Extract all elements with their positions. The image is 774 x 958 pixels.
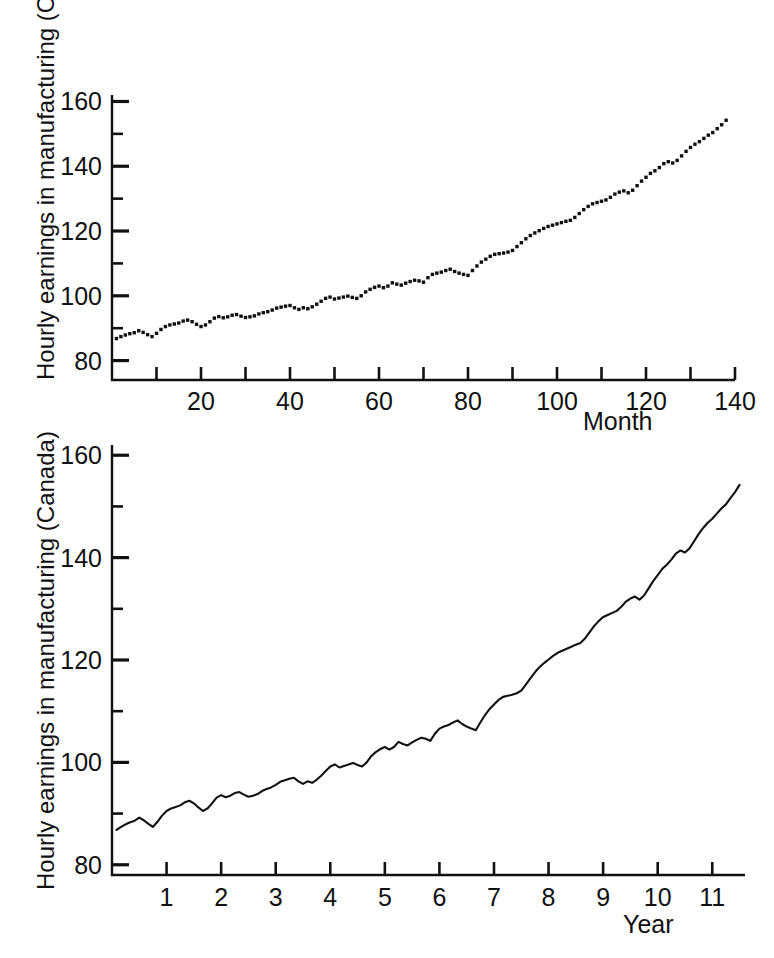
x-tick-label: 40: [276, 387, 304, 415]
series-path: [117, 485, 740, 830]
data-point: [457, 271, 460, 274]
data-point: [244, 316, 247, 319]
data-point: [190, 320, 193, 323]
data-point: [164, 325, 167, 328]
data-point: [707, 133, 710, 136]
data-point: [724, 119, 727, 122]
data-point: [279, 305, 282, 308]
year-chart-x-ticklabels: 1234567891011: [160, 883, 726, 911]
data-point: [649, 172, 652, 175]
data-point: [368, 288, 371, 291]
data-point: [293, 306, 296, 309]
data-point: [373, 286, 376, 289]
data-point: [226, 315, 229, 318]
data-point: [702, 137, 705, 140]
data-point: [604, 198, 607, 201]
data-point: [346, 294, 349, 297]
data-point: [257, 312, 260, 315]
data-point: [208, 320, 211, 323]
data-point: [311, 305, 314, 308]
year-chart-series-line: [117, 485, 740, 830]
data-point: [230, 314, 233, 317]
data-point: [408, 280, 411, 283]
data-point: [386, 284, 389, 287]
data-point: [195, 323, 198, 326]
data-point: [159, 328, 162, 331]
data-point: [248, 315, 251, 318]
data-point: [133, 331, 136, 334]
data-point: [515, 245, 518, 248]
data-point: [662, 162, 665, 165]
year-chart-y-axis-title: Hourly earnings in manufacturing (Canada…: [32, 431, 59, 890]
data-point: [168, 323, 171, 326]
data-point: [555, 222, 558, 225]
data-point: [471, 269, 474, 272]
data-point: [222, 316, 225, 319]
data-point: [582, 208, 585, 211]
month-chart-axes: [112, 95, 735, 380]
data-point: [337, 296, 340, 299]
data-point: [506, 250, 509, 253]
data-point: [586, 205, 589, 208]
data-point: [693, 143, 696, 146]
data-point: [627, 191, 630, 194]
data-point: [204, 323, 207, 326]
data-point: [328, 295, 331, 298]
x-tick-label: 80: [454, 387, 482, 415]
year-chart-x-axis-title: Year: [623, 910, 674, 938]
data-point: [613, 192, 616, 195]
data-point: [377, 284, 380, 287]
chart-panel-year: 80100120140160 1234567891011 Hourly earn…: [0, 430, 774, 958]
data-point: [360, 294, 363, 297]
data-point: [404, 281, 407, 284]
data-point: [444, 269, 447, 272]
data-point: [266, 310, 269, 313]
y-tick-label: 140: [60, 152, 102, 180]
data-point: [520, 241, 523, 244]
data-point: [680, 154, 683, 157]
data-point: [395, 282, 398, 285]
data-point: [217, 315, 220, 318]
data-point: [435, 271, 438, 274]
x-tick-label: 1: [160, 883, 174, 911]
y-tick-label: 160: [60, 87, 102, 115]
data-point: [319, 300, 322, 303]
data-point: [173, 322, 176, 325]
data-point: [400, 283, 403, 286]
data-point: [658, 166, 661, 169]
data-point: [600, 200, 603, 203]
data-point: [618, 190, 621, 193]
data-point: [480, 260, 483, 263]
month-chart-y-ticklabels: 80100120140160: [60, 87, 102, 374]
year-chart-y-ticklabels: 80100120140160: [60, 441, 102, 879]
data-point: [595, 201, 598, 204]
data-point: [538, 229, 541, 232]
x-tick-label: 10: [644, 883, 672, 911]
y-tick-label: 160: [60, 441, 102, 469]
data-point: [391, 281, 394, 284]
data-point: [653, 169, 656, 172]
y-tick-label: 80: [74, 347, 102, 375]
y-tick-label: 80: [74, 851, 102, 879]
data-point: [466, 274, 469, 277]
data-point: [440, 270, 443, 273]
data-point: [453, 270, 456, 273]
y-tick-label: 120: [60, 217, 102, 245]
data-point: [364, 290, 367, 293]
data-point: [253, 314, 256, 317]
data-point: [302, 306, 305, 309]
data-point: [284, 304, 287, 307]
x-tick-label: 4: [323, 883, 337, 911]
x-tick-label: 60: [365, 387, 393, 415]
data-point: [529, 234, 532, 237]
data-point: [502, 251, 505, 254]
data-point: [720, 123, 723, 126]
data-point: [689, 146, 692, 149]
data-point: [128, 332, 131, 335]
data-point: [115, 337, 118, 340]
data-point: [199, 325, 202, 328]
data-point: [288, 304, 291, 307]
data-point: [413, 279, 416, 282]
data-point: [124, 333, 127, 336]
x-tick-label: 7: [487, 883, 501, 911]
